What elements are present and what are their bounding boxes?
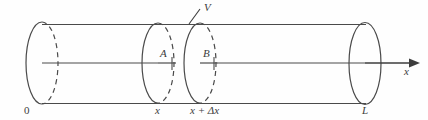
position-origin-label: 0 <box>24 105 30 116</box>
volume-leader-line <box>189 9 200 24</box>
x-axis-label: x <box>404 66 409 77</box>
section-a-label: A <box>160 48 167 59</box>
position-x-plus-delta-x-label: x + Δx <box>190 105 219 116</box>
diagram-canvas <box>0 0 428 120</box>
cylinder-rod-diagram: V A B x 0 x x + Δx L <box>0 0 428 120</box>
volume-label: V <box>204 2 211 13</box>
position-length-label: L <box>362 105 368 116</box>
position-x-label: x <box>155 105 160 116</box>
section-b-label: B <box>203 48 210 59</box>
disc-b-front-arc <box>184 23 200 103</box>
left-cap-front-arc <box>26 22 42 104</box>
x-axis-arrowhead <box>409 59 420 68</box>
